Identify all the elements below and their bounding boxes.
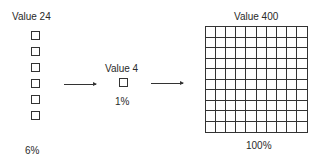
grid-cell [287,80,297,91]
grid-cell [246,38,256,49]
grid-cell [297,80,307,91]
grid-cell [297,101,307,112]
grid-cell [267,69,277,80]
grid-cell [216,69,226,80]
grid-cell [297,111,307,122]
grid-cell [297,48,307,59]
grid-cell [226,48,236,59]
grid-cell [216,48,226,59]
grid-cell [277,122,287,133]
grid-cell [267,111,277,122]
grid-cell [246,48,256,59]
grid-cell [277,27,287,38]
grid-cell [257,90,267,101]
grid-cell [287,59,297,70]
grid-cell [257,69,267,80]
grid-cell [257,38,267,49]
grid-cell [226,59,236,70]
grid-cell [236,69,246,80]
grid-cell [267,90,277,101]
grid-cell [246,69,256,80]
hundred-grid [205,26,308,133]
arrow-icon [64,84,96,85]
grid-cell [287,69,297,80]
grid-cell [257,59,267,70]
grid-cell [206,111,216,122]
grid-cell [226,69,236,80]
grid-cell [277,48,287,59]
grid-cell [246,101,256,112]
grid-cell [287,48,297,59]
middle-title: Value 4 [105,63,138,74]
grid-cell [206,48,216,59]
grid-cell [257,111,267,122]
square [31,63,40,72]
grid-cell [236,59,246,70]
left-title: Value 24 [12,11,51,22]
grid-cell [206,59,216,70]
grid-cell [267,80,277,91]
grid-cell [257,48,267,59]
grid-cell [297,59,307,70]
grid-cell [206,80,216,91]
grid-cell [257,27,267,38]
grid-cell [257,80,267,91]
grid-cell [216,101,226,112]
grid-cell [267,48,277,59]
grid-cell [226,80,236,91]
grid-cell [206,101,216,112]
grid-cell [236,80,246,91]
grid-cell [267,101,277,112]
grid-cell [287,122,297,133]
grid-cell [287,101,297,112]
grid-cell [236,27,246,38]
grid-cell [277,38,287,49]
grid-cell [206,27,216,38]
grid-cell [257,122,267,133]
grid-cell [287,27,297,38]
grid-cell [216,90,226,101]
grid-cell [216,80,226,91]
grid-cell [216,122,226,133]
grid-cell [226,38,236,49]
grid-cell [236,48,246,59]
grid-cell [277,111,287,122]
left-percent: 6% [25,145,39,156]
square [31,31,40,40]
grid-cell [226,90,236,101]
right-title: Value 400 [234,11,278,22]
grid-cell [216,59,226,70]
grid-cell [206,122,216,133]
grid-cell [267,122,277,133]
grid-cell [246,90,256,101]
square [31,111,40,120]
grid-cell [226,111,236,122]
square [119,78,128,87]
grid-cell [216,27,226,38]
grid-cell [236,111,246,122]
grid-cell [297,122,307,133]
grid-cell [246,59,256,70]
grid-cell [236,90,246,101]
grid-cell [267,27,277,38]
grid-cell [246,80,256,91]
grid-cell [236,122,246,133]
grid-cell [287,38,297,49]
grid-cell [297,38,307,49]
grid-cell [216,38,226,49]
grid-cell [277,90,287,101]
arrow-icon [151,83,183,84]
grid-cell [236,101,246,112]
grid-cell [257,101,267,112]
grid-cell [226,101,236,112]
grid-cell [226,122,236,133]
grid-cell [246,111,256,122]
grid-cell [267,38,277,49]
grid-cell [206,90,216,101]
grid-cell [287,90,297,101]
grid-cell [246,27,256,38]
grid-cell [246,122,256,133]
square [31,47,40,56]
square [31,79,40,88]
grid-cell [206,38,216,49]
